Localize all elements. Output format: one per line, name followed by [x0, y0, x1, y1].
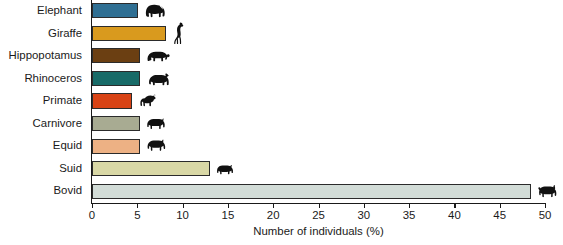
x-tick-label-30: 30: [357, 209, 370, 221]
x-tick-label-25: 25: [312, 209, 325, 221]
equid-icon: [146, 139, 166, 153]
hippopotamus-icon: [146, 49, 170, 62]
bar-row: [92, 45, 545, 67]
x-axis-title: Number of individuals (%): [92, 225, 545, 237]
x-tick-25: [319, 203, 320, 208]
bar-row: [92, 135, 545, 157]
category-label-carnivore: Carnivore: [33, 113, 82, 135]
bar-row: [92, 0, 545, 22]
bar-elephant[interactable]: [92, 3, 138, 18]
bar-suid[interactable]: [92, 161, 210, 176]
bar-row: [92, 23, 545, 45]
plot-area: 05101520253035404550: [92, 0, 545, 203]
x-tick-label-5: 5: [134, 209, 140, 221]
bar-rhinoceros[interactable]: [92, 71, 140, 86]
x-tick-30: [364, 203, 365, 208]
x-tick-label-45: 45: [493, 209, 506, 221]
x-tick-35: [409, 203, 410, 208]
x-tick-0: [92, 203, 93, 208]
category-axis-labels: ElephantGiraffeHippopotamusRhinocerosPri…: [0, 0, 86, 203]
x-tick-label-50: 50: [539, 209, 552, 221]
bovid-icon: [537, 185, 557, 198]
category-label-hippopotamus: Hippopotamus: [9, 45, 82, 67]
category-label-elephant: Elephant: [37, 0, 82, 22]
category-label-rhinoceros: Rhinoceros: [24, 68, 82, 90]
x-tick-5: [137, 203, 138, 208]
bar-row: [92, 90, 545, 112]
category-label-giraffe: Giraffe: [48, 23, 82, 45]
bar-row: [92, 68, 545, 90]
carnivore-icon: [146, 117, 166, 130]
bar-bovid[interactable]: [92, 184, 531, 199]
x-tick-label-0: 0: [89, 209, 95, 221]
x-tick-20: [273, 203, 274, 208]
x-tick-45: [500, 203, 501, 208]
primate-icon: [138, 94, 158, 108]
x-tick-50: [545, 203, 546, 208]
horizontal-bar-chart: ElephantGiraffeHippopotamusRhinocerosPri…: [0, 0, 563, 245]
x-tick-40: [454, 203, 455, 208]
x-tick-label-10: 10: [176, 209, 189, 221]
category-label-bovid: Bovid: [54, 180, 83, 202]
category-label-equid: Equid: [53, 135, 82, 157]
x-tick-label-20: 20: [267, 209, 280, 221]
x-tick-label-40: 40: [448, 209, 461, 221]
bar-row: [92, 158, 545, 180]
x-tick-label-15: 15: [222, 209, 235, 221]
bar-carnivore[interactable]: [92, 116, 140, 131]
category-label-primate: Primate: [43, 90, 82, 112]
bar-hippopotamus[interactable]: [92, 48, 140, 63]
x-tick-label-35: 35: [403, 209, 416, 221]
rhinoceros-icon: [146, 72, 170, 85]
giraffe-icon: [172, 22, 186, 44]
category-label-suid: Suid: [59, 158, 82, 180]
x-tick-10: [183, 203, 184, 208]
suid-icon: [216, 163, 234, 174]
elephant-icon: [144, 3, 168, 19]
bar-row: [92, 113, 545, 135]
bar-equid[interactable]: [92, 139, 140, 154]
x-tick-15: [228, 203, 229, 208]
bar-giraffe[interactable]: [92, 26, 166, 41]
bar-row: [92, 180, 545, 202]
bar-primate[interactable]: [92, 93, 132, 108]
